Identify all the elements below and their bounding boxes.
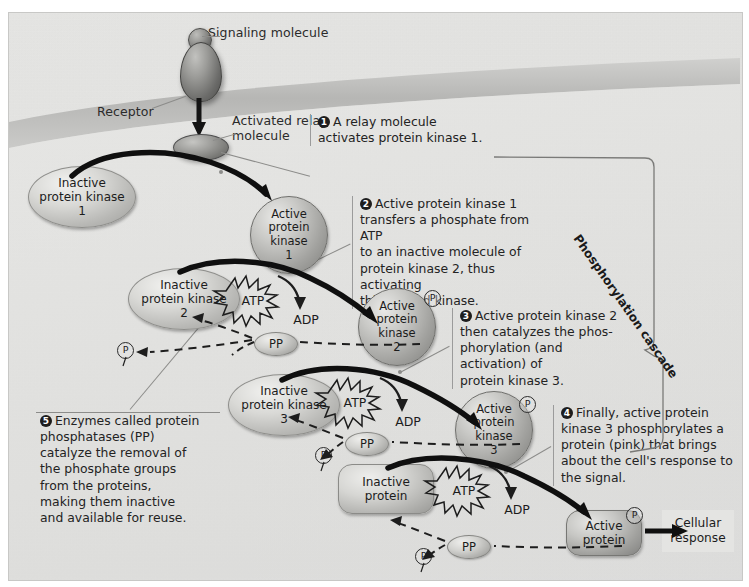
step-5-text: Enzymes called protein phosphatases (PP)…	[40, 413, 199, 525]
inactive-protein-kinase-3: Inactive protein kinase 3	[228, 374, 340, 436]
inactive-kinase-3-label: Inactive protein kinase 3	[241, 384, 326, 426]
phosphate-icon-kinase2: P	[424, 290, 441, 307]
atp-text-1: ATP	[242, 293, 265, 308]
phosphate-icon-released-3: P	[315, 447, 332, 464]
response-line2: response	[670, 531, 725, 545]
inactive-protein-label: Inactive protein	[362, 475, 410, 503]
phosphate-label-2: P	[525, 398, 531, 409]
step-1-text: A relay molecule activates protein kinas…	[318, 114, 482, 145]
atp-label-2: ATP	[330, 392, 380, 412]
step-5-number: 5	[40, 415, 52, 427]
atp-label-1: ATP	[228, 290, 278, 310]
receptor-shape	[180, 42, 222, 102]
step-1-callout: 1A relay molecule activates protein kina…	[310, 114, 490, 146]
adp-label-1: ADP	[286, 310, 326, 328]
active-protein-kinase-1: Active protein kinase 1	[250, 196, 328, 274]
phosphate-icon-released-2: P	[117, 342, 134, 359]
pp-label-2: PP	[360, 437, 374, 451]
phosphatase-pp-2: PP	[254, 332, 298, 356]
leader-signaling-molecule	[202, 36, 220, 37]
pp-label-3: PP	[462, 540, 476, 554]
inactive-kinase-2-label: Inactive protein kinase 2	[141, 278, 226, 320]
atp-text-2: ATP	[344, 395, 367, 410]
adp-text-1: ADP	[293, 312, 319, 327]
phosphatase-pp-3: PP	[345, 432, 389, 456]
phosphate-label-6: P	[421, 550, 427, 561]
phosphate-label-3: P	[632, 509, 638, 520]
phosphate-label-4: P	[123, 344, 129, 355]
active-protein-label: Active protein	[583, 519, 626, 547]
cellular-response-label: Cellularresponse	[670, 516, 725, 545]
active-kinase-2-label: Active protein kinase 2	[377, 300, 418, 354]
active-kinase-3-label: Active protein kinase 3	[474, 403, 515, 457]
adp-text-2: ADP	[395, 414, 421, 429]
atp-label-3: ATP	[439, 480, 489, 500]
label-signaling-molecule: Signaling molecule	[208, 25, 328, 40]
inactive-protein-kinase-2: Inactive protein kinase 2	[128, 268, 240, 330]
step-3-callout: 3Active protein kinase 2 then catalyzes …	[452, 308, 628, 389]
phosphate-icon-active-protein: P	[626, 507, 643, 524]
inactive-protein-kinase-1: Inactive protein kinase 1	[28, 166, 136, 228]
figure-canvas: Signaling molecule Receptor Activated re…	[0, 0, 749, 587]
active-kinase-1-label: Active protein kinase 1	[269, 208, 310, 262]
inactive-kinase-1-label: Inactive protein kinase 1	[39, 176, 124, 218]
step-5-callout: 5Enzymes called protein phosphatases (PP…	[40, 413, 224, 526]
response-line1: Cellular	[675, 516, 721, 530]
leader-dot-step-4	[504, 470, 508, 474]
inactive-protein: Inactive protein	[338, 464, 434, 514]
step-4-text: Finally, active protein kinase 3 phospho…	[561, 405, 733, 485]
leader-step-5-horizontal	[36, 412, 220, 413]
adp-label-3: ADP	[497, 500, 537, 518]
phosphatase-pp-4: PP	[447, 535, 491, 559]
pp-label-1: PP	[269, 337, 283, 351]
phosphate-icon-kinase3: P	[519, 396, 536, 413]
relay-line2: molecule	[232, 128, 290, 143]
leader-dot-step-1	[219, 170, 223, 174]
adp-text-3: ADP	[504, 502, 530, 517]
step-4-callout: 4Finally, active protein kinase 3 phosph…	[553, 405, 737, 486]
atp-text-3: ATP	[453, 483, 476, 498]
label-receptor: Receptor	[97, 104, 154, 119]
cellular-response-box: Cellularresponse	[662, 510, 734, 552]
phosphate-label-1: P	[430, 292, 436, 303]
leader-dot-step-3	[398, 370, 402, 374]
step-4-number: 4	[561, 407, 573, 419]
step-2-number: 2	[360, 198, 372, 210]
step-1-number: 1	[318, 116, 330, 128]
step-3-number: 3	[460, 310, 472, 322]
phosphate-icon-released-4: P	[415, 548, 432, 565]
phosphate-label-5: P	[321, 449, 327, 460]
step-3-text: Active protein kinase 2 then catalyzes t…	[460, 308, 617, 388]
adp-label-2: ADP	[388, 412, 428, 430]
